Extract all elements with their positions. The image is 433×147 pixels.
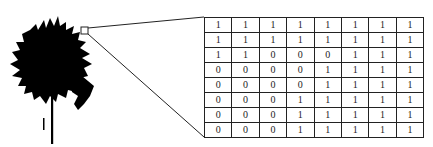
grid-row: 11111111 bbox=[205, 18, 424, 33]
grid-row: 00011111 bbox=[205, 123, 424, 138]
grid-cell: 1 bbox=[287, 18, 314, 33]
grid-cell: 1 bbox=[369, 123, 396, 138]
grid-cell: 0 bbox=[205, 93, 232, 108]
grid-cell: 0 bbox=[232, 63, 259, 78]
grid-cell: 1 bbox=[341, 78, 368, 93]
grid-cell: 1 bbox=[287, 33, 314, 48]
grid-cell: 1 bbox=[369, 93, 396, 108]
binary-pixel-grid: 11111111 11111111 11000111 00001111 0000… bbox=[204, 17, 424, 138]
grid-cell: 0 bbox=[287, 48, 314, 63]
grid-cell: 1 bbox=[396, 48, 423, 63]
grid-cell: 1 bbox=[341, 93, 368, 108]
grid-cell: 1 bbox=[232, 18, 259, 33]
grid-cell: 0 bbox=[232, 93, 259, 108]
grid-cell: 1 bbox=[314, 78, 341, 93]
grid-cell: 1 bbox=[396, 93, 423, 108]
grid-cell: 1 bbox=[287, 123, 314, 138]
grid-cell: 1 bbox=[232, 33, 259, 48]
grid-cell: 1 bbox=[396, 108, 423, 123]
grid-cell: 1 bbox=[396, 123, 423, 138]
grid-cell: 1 bbox=[341, 108, 368, 123]
grid-cell: 0 bbox=[287, 63, 314, 78]
grid-cell: 0 bbox=[259, 63, 286, 78]
grid-cell: 1 bbox=[314, 108, 341, 123]
grid-cell: 0 bbox=[287, 78, 314, 93]
grid-cell: 1 bbox=[369, 48, 396, 63]
grid-cell: 1 bbox=[341, 63, 368, 78]
zoom-box bbox=[81, 27, 88, 34]
grid-row: 00001111 bbox=[205, 63, 424, 78]
grid-cell: 1 bbox=[314, 18, 341, 33]
grid-cell: 1 bbox=[369, 78, 396, 93]
grid-row: 00011111 bbox=[205, 108, 424, 123]
grid-cell: 1 bbox=[396, 18, 423, 33]
grid-cell: 1 bbox=[396, 63, 423, 78]
grid-cell: 1 bbox=[314, 33, 341, 48]
grid-cell: 0 bbox=[259, 78, 286, 93]
grid-cell: 1 bbox=[205, 48, 232, 63]
grid-cell: 1 bbox=[341, 48, 368, 63]
grid-cell: 1 bbox=[232, 48, 259, 63]
grid-cell: 1 bbox=[259, 18, 286, 33]
grid-cell: 0 bbox=[232, 108, 259, 123]
grid-row: 00011111 bbox=[205, 93, 424, 108]
grid-cell: 1 bbox=[287, 108, 314, 123]
grid-cell: 0 bbox=[205, 78, 232, 93]
grid-cell: 1 bbox=[341, 33, 368, 48]
grid-cell: 1 bbox=[314, 93, 341, 108]
grid-cell: 1 bbox=[205, 18, 232, 33]
grid-cell: 0 bbox=[205, 108, 232, 123]
grid-row: 11000111 bbox=[205, 48, 424, 63]
grid-row: 00001111 bbox=[205, 78, 424, 93]
grid-cell: 1 bbox=[369, 33, 396, 48]
grid-cell: 1 bbox=[259, 33, 286, 48]
grid-cell: 0 bbox=[259, 93, 286, 108]
grid-cell: 1 bbox=[396, 78, 423, 93]
grid-cell: 1 bbox=[314, 123, 341, 138]
grid-cell: 1 bbox=[396, 33, 423, 48]
grid-cell: 1 bbox=[369, 108, 396, 123]
grid-cell: 0 bbox=[259, 48, 286, 63]
grid-cell: 0 bbox=[205, 63, 232, 78]
grid-cell: 1 bbox=[341, 18, 368, 33]
grid-cell: 1 bbox=[205, 33, 232, 48]
grid-cell: 1 bbox=[341, 123, 368, 138]
grid-row: 11111111 bbox=[205, 33, 424, 48]
grid-cell: 1 bbox=[369, 63, 396, 78]
grid-cell: 0 bbox=[232, 123, 259, 138]
grid-cell: 1 bbox=[314, 63, 341, 78]
grid-cell: 0 bbox=[205, 123, 232, 138]
grid-cell: 0 bbox=[314, 48, 341, 63]
grid-cell: 0 bbox=[232, 78, 259, 93]
grid-cell: 0 bbox=[259, 123, 286, 138]
grid-cell: 1 bbox=[287, 93, 314, 108]
grid-cell: 1 bbox=[369, 18, 396, 33]
grid-cell: 0 bbox=[259, 108, 286, 123]
